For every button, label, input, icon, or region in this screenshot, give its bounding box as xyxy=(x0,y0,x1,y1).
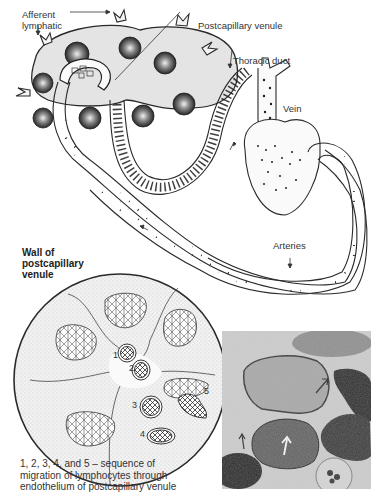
caption-line-1: 1, 2, 3, 4, and 5 – sequence of xyxy=(20,458,230,470)
heart xyxy=(244,119,320,215)
step-number-4: 4 xyxy=(140,429,145,440)
label-arteries: Arteries xyxy=(273,240,306,251)
heading-wall-line3: venule xyxy=(22,269,54,281)
heading-wall-line1: Wall of xyxy=(22,247,54,259)
label-afferent-lymphatic-line2: lymphatic xyxy=(22,20,62,31)
caption-line-3: endothelium of postcapillary venule xyxy=(20,481,230,493)
label-thoracic-duct: Thoracic duct xyxy=(233,55,290,66)
step-number-5: 5 xyxy=(204,386,209,397)
step-number-1: 1 xyxy=(113,350,118,361)
step-number-2: 2 xyxy=(129,363,134,374)
heading-wall-line2: postcapillary xyxy=(22,258,84,270)
electron-micrograph xyxy=(222,331,371,489)
label-postcapillary-venule: Postcapillary venule xyxy=(198,20,283,31)
figure-caption: 1, 2, 3, 4, and 5 – sequence of migratio… xyxy=(20,458,230,493)
step-number-3: 3 xyxy=(132,400,137,411)
label-vein: Vein xyxy=(283,103,302,114)
lymph-circulation-diagram xyxy=(0,0,380,320)
label-afferent-lymphatic-line1: Afferent xyxy=(22,9,55,20)
caption-line-2: migration of lymphocytes through xyxy=(20,470,230,482)
